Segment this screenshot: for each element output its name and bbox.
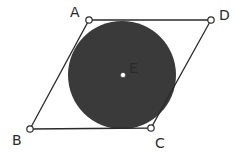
parallelogram-with-inscribed-circle: A B C D E [0, 0, 241, 157]
label-a: A [70, 4, 80, 20]
point-a [86, 17, 92, 23]
point-c [148, 125, 154, 131]
label-d: D [219, 7, 230, 23]
label-e: E [129, 60, 138, 76]
point-d [208, 17, 214, 23]
label-b: B [12, 132, 22, 148]
geometry-diagram: A B C D E [0, 0, 241, 157]
point-b [27, 126, 33, 132]
point-e-center [120, 72, 125, 77]
label-c: C [155, 135, 165, 151]
